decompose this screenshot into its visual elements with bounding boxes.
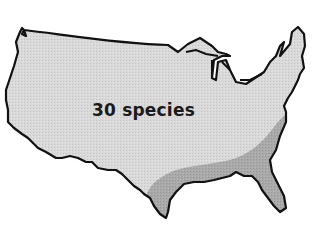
us-outline-map [0,0,320,244]
species-range-map: 30 species [0,0,320,244]
species-count-label: 30 species [92,100,195,120]
